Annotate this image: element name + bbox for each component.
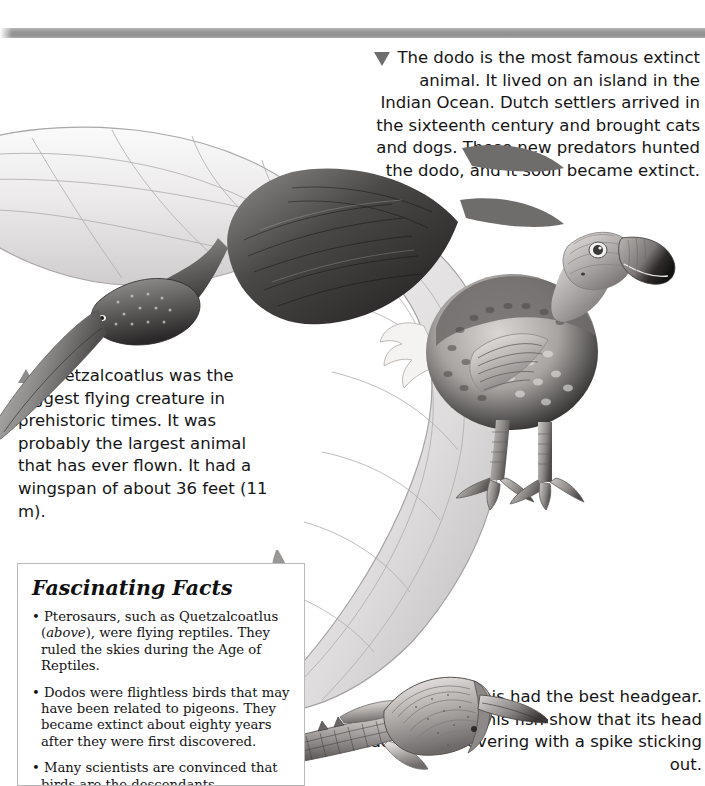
fascinating-facts-box: Fascinating Facts • Pterosaurs, such as … <box>17 563 305 786</box>
quetzalcoatlus-caption-text: Quetzalcoatlus was the biggest flying cr… <box>18 366 267 521</box>
pteraspis-caption: Pteraspis had the best headgear. Fossils… <box>360 686 702 776</box>
triangle-down-icon <box>374 52 390 66</box>
fact-text-pre: Dodos were flightless birds that may hav… <box>40 685 290 749</box>
fact-item: • Pterosaurs, such as Quetzalcoatlus (ab… <box>32 609 290 675</box>
triangle-left-icon <box>407 689 421 705</box>
dodo-caption-text: The dodo is the most famous extinct anim… <box>376 48 700 180</box>
fact-item: • Dodos were flightless birds that may h… <box>32 685 290 751</box>
fact-item: • Many scientists are convinced that bir… <box>32 760 290 786</box>
header-divider-rule <box>0 28 705 38</box>
fact-text-italic: above <box>46 625 86 640</box>
facts-box-title: Fascinating Facts <box>32 576 290 600</box>
pteraspis-caption-lead: Pteraspis had the best headgear. <box>429 687 702 706</box>
pteraspis-caption-bold: Fossils <box>390 710 453 729</box>
quetzalcoatlus-caption: Quetzalcoatlus was the biggest flying cr… <box>18 365 268 523</box>
page-title: Extinct Animals <box>0 0 705 12</box>
fact-bullet: • <box>32 685 40 700</box>
fact-bullet: • <box>32 609 40 624</box>
page-root: Extinct Animals <box>0 0 705 786</box>
dodo-caption: The dodo is the most famous extinct anim… <box>368 47 700 183</box>
fact-text-pre: Many scientists are convinced that birds… <box>40 760 278 786</box>
fact-bullet: • <box>32 760 40 775</box>
triangle-up-icon <box>18 369 34 383</box>
dodo-illustration <box>378 222 678 522</box>
page-title-clipped: Extinct Animals <box>0 0 705 12</box>
